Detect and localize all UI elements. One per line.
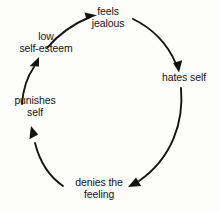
node-punishes-self-line-1: punishes [2,95,68,107]
node-hates-self-line-1: hates self [152,72,216,84]
node-denies-feeling-line-2: feeling [62,189,136,201]
node-low-self-esteem: low self-esteem [6,31,86,54]
node-punishes-self-line-2: self [2,107,68,119]
node-feels-jealous-line-2: jealous [78,18,138,30]
node-low-self-esteem-line-2: self-esteem [6,43,86,55]
arc-denies-feeling-to-punishes-self [35,143,63,186]
arrowhead-punishes-self [29,126,38,139]
arc-hates-self-to-denies-feeling [139,88,181,181]
node-denies-feeling-line-1: denies the [62,177,136,189]
node-low-self-esteem-line-1: low [6,31,86,43]
node-punishes-self: punishes self [2,95,68,118]
arc-feels-jealous-to-hates-self [133,19,176,64]
cycle-diagram: feels jealous low self-esteem hates self… [0,0,220,212]
arrowhead-low-self-esteem [30,57,39,67]
node-hates-self: hates self [152,72,216,84]
node-denies-feeling: denies the feeling [62,177,136,200]
node-feels-jealous: feels jealous [78,6,138,29]
node-feels-jealous-line-1: feels [78,6,138,18]
